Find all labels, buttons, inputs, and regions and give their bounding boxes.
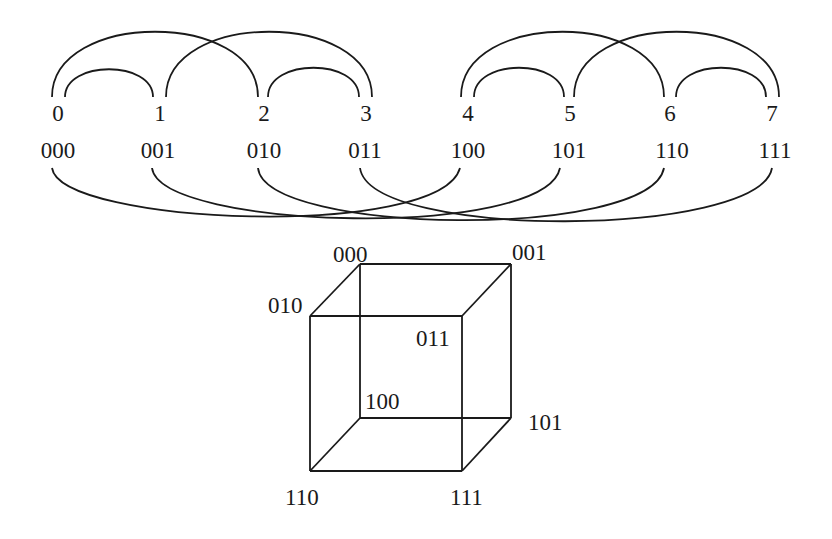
node-binary-001: 001 xyxy=(141,138,176,163)
cube-label-011: 011 xyxy=(416,326,450,351)
node-binary-101: 101 xyxy=(552,138,587,163)
node-binary-100: 100 xyxy=(451,138,486,163)
cube xyxy=(310,264,511,471)
index-labels: 0 1 2 3 4 5 6 7 xyxy=(52,101,778,126)
hypercube-diagram: 0 1 2 3 4 5 6 7 000 001 010 011 100 101 … xyxy=(0,0,832,539)
bottom-arcs xyxy=(52,168,772,221)
node-binary-110: 110 xyxy=(655,138,689,163)
arc-0-1 xyxy=(65,69,153,97)
arc-2-3 xyxy=(268,68,359,97)
arc-6-7 xyxy=(676,68,766,97)
arc-4-5 xyxy=(474,68,564,97)
cube-label-111: 111 xyxy=(450,485,483,510)
cube-label-110: 110 xyxy=(285,485,319,510)
cube-label-101: 101 xyxy=(528,410,563,435)
arc-001-101 xyxy=(152,168,560,218)
top-arcs xyxy=(52,32,779,97)
node-index-6: 6 xyxy=(664,101,676,126)
cube-label-000: 000 xyxy=(333,242,368,267)
edge-000-010 xyxy=(310,264,360,316)
node-index-3: 3 xyxy=(360,101,372,126)
binary-labels: 000 001 010 011 100 101 110 111 xyxy=(41,138,792,163)
node-binary-111: 111 xyxy=(759,138,792,163)
node-index-2: 2 xyxy=(258,101,270,126)
node-index-7: 7 xyxy=(766,101,778,126)
node-index-0: 0 xyxy=(52,101,64,126)
arc-0-2 xyxy=(52,32,258,97)
edge-001-011 xyxy=(462,264,511,316)
node-index-4: 4 xyxy=(462,101,474,126)
arc-000-100 xyxy=(52,168,460,217)
edge-100-110 xyxy=(310,418,360,471)
cube-label-001: 001 xyxy=(512,240,547,265)
cube-label-010: 010 xyxy=(268,293,303,318)
arc-1-3 xyxy=(166,32,372,97)
node-binary-011: 011 xyxy=(348,138,382,163)
arc-5-7 xyxy=(574,32,779,97)
node-index-1: 1 xyxy=(154,101,166,126)
edge-101-111 xyxy=(462,418,511,471)
node-binary-010: 010 xyxy=(247,138,282,163)
node-index-5: 5 xyxy=(564,101,576,126)
cube-label-100: 100 xyxy=(365,389,400,414)
node-binary-000: 000 xyxy=(41,138,76,163)
